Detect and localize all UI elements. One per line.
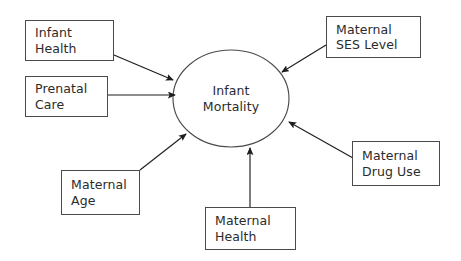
node-maternal-ses-level: Maternal SES Level [326,16,421,58]
node-maternal-ses-level-label-line1: Maternal [336,22,416,38]
edge-maternal-drug-use [289,122,353,158]
infant-mortality-label-line1: Infant [212,83,249,99]
edge-infant-health [114,55,173,80]
node-prenatal-care-label-line2: Care [35,97,103,113]
node-maternal-age-label-line1: Maternal [71,177,135,193]
node-maternal-age: Maternal Age [61,170,140,215]
diagram-canvas: Infant Mortality Infant Health Prenatal … [0,0,461,261]
infant-mortality-label-line2: Mortality [203,99,259,115]
infant-mortality-node: Infant Mortality [173,50,289,147]
node-infant-health-label-line1: Infant [35,25,109,41]
node-maternal-health-label-line2: Health [215,229,291,245]
node-infant-health-label-line2: Health [35,41,109,57]
node-maternal-drug-use-label-line2: Drug Use [362,164,435,180]
node-maternal-ses-level-label-line2: SES Level [336,37,416,53]
node-maternal-health-label-line1: Maternal [215,213,291,229]
node-maternal-health: Maternal Health [205,207,296,250]
node-infant-health: Infant Health [25,20,114,61]
node-maternal-age-label-line2: Age [71,193,135,209]
node-maternal-drug-use-label-line1: Maternal [362,148,435,164]
node-maternal-drug-use: Maternal Drug Use [352,141,440,186]
node-prenatal-care-label-line1: Prenatal [35,81,103,97]
node-prenatal-care: Prenatal Care [25,76,108,117]
